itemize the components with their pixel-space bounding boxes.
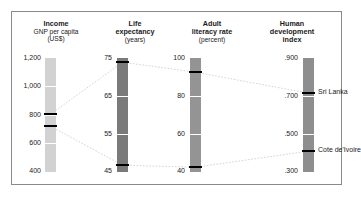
column-header-adult-literacy: Adult literacy rate (percent)	[176, 20, 248, 44]
gridline-life-55	[117, 134, 128, 135]
column-subtitle-adult-literacy-2: (percent)	[176, 36, 248, 43]
tick-hdi-900: .900	[272, 54, 298, 61]
tick-life-55: 55	[88, 130, 112, 137]
marker-life-sri-lanka	[116, 61, 129, 63]
axis-bar-hdi	[303, 58, 314, 172]
series-label-sri-lanka: Sri Lanka	[318, 88, 348, 95]
tick-income-400: 400	[12, 167, 41, 174]
gridline-hdi-500	[303, 134, 314, 135]
axis-column-income	[45, 58, 56, 172]
column-subtitle-income-1: GNP per capita	[18, 28, 94, 35]
tick-hdi-500: .500	[272, 130, 298, 137]
tick-income-1200: 1,200	[12, 54, 41, 61]
marker-hdi-cote-divoire	[302, 150, 315, 152]
marker-literacy-sri-lanka	[189, 71, 202, 73]
gridline-income-600	[45, 143, 56, 144]
series-label-cote-divoire: Cote de'Ivoire	[318, 146, 361, 153]
column-header-income: Income GNP per capita (US$)	[18, 20, 94, 43]
tick-life-45: 45	[88, 167, 112, 174]
tick-income-600: 600	[12, 139, 41, 146]
tick-literacy-80: 80	[160, 92, 185, 99]
gridline-literacy-80	[190, 96, 201, 97]
marker-life-cote-divoire	[116, 164, 129, 166]
column-subtitle-life-expectancy-2: (years)	[100, 36, 170, 43]
gridline-income-1000	[45, 86, 56, 87]
tick-literacy-60: 60	[160, 130, 185, 137]
marker-literacy-cote-divoire	[189, 166, 202, 168]
column-subtitle-life-expectancy-1: expectancy	[100, 28, 170, 36]
marker-hdi-sri-lanka	[302, 92, 315, 94]
axis-column-hdi	[303, 58, 314, 172]
gridline-hdi-700	[303, 96, 314, 97]
marker-income-cote-divoire	[44, 125, 57, 127]
axis-bar-life-expectancy	[117, 58, 128, 172]
column-header-life-expectancy: Life expectancy (years)	[100, 20, 170, 44]
axis-bar-adult-literacy	[190, 58, 201, 172]
gridline-literacy-60	[190, 134, 201, 135]
column-subtitle-adult-literacy-1: literacy rate	[176, 28, 248, 36]
axis-column-life-expectancy	[117, 58, 128, 172]
gridline-life-65	[117, 96, 128, 97]
tick-life-75: 75	[88, 54, 112, 61]
axis-column-adult-literacy	[190, 58, 201, 172]
column-subtitle-hdi-2: index	[252, 36, 332, 44]
column-subtitle-income-2: (US$)	[18, 35, 94, 42]
tick-literacy-100: 100	[160, 54, 185, 61]
tick-hdi-700: .700	[272, 92, 298, 99]
column-header-hdi: Human development index	[252, 20, 332, 44]
tick-hdi-300: .300	[272, 167, 298, 174]
tick-income-800: 800	[12, 111, 41, 118]
tick-literacy-40: 40	[160, 167, 185, 174]
tick-income-1000: 1,000	[12, 82, 41, 89]
marker-income-sri-lanka	[44, 113, 57, 115]
tick-life-65: 65	[88, 92, 112, 99]
column-title-income: Income	[18, 20, 94, 28]
